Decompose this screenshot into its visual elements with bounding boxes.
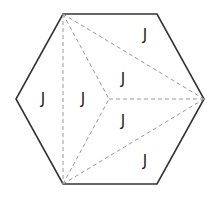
region-label: J: [80, 90, 85, 108]
region-label: J: [142, 26, 147, 44]
dashed-line-bottom-to-right: [63, 99, 204, 184]
dashed-line-top-to-right: [63, 14, 204, 99]
region-label: J: [40, 90, 45, 108]
dashed-line-bottom-to-center: [63, 99, 109, 184]
region-label: J: [120, 70, 125, 88]
dashed-line-top-to-center: [63, 14, 109, 99]
region-label: J: [120, 112, 125, 130]
region-label: J: [142, 152, 147, 170]
hexagon-diagram: J J J J J J: [0, 0, 213, 203]
